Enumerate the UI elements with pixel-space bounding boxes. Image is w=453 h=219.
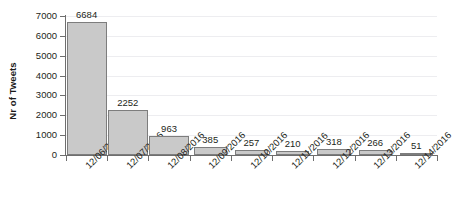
y-axis-tick <box>60 76 65 77</box>
x-axis-tick <box>231 156 232 161</box>
x-axis-tick <box>66 156 67 161</box>
x-axis-tick <box>355 156 356 161</box>
y-axis-tick <box>60 135 65 136</box>
y-axis-tick <box>60 155 65 156</box>
y-axis-tick-label: 6000 <box>17 31 57 41</box>
y-axis-tick-label: 4000 <box>17 71 57 81</box>
bar-chart: Nr of Tweets 010002000300040005000600070… <box>0 0 453 219</box>
y-axis-tick <box>60 56 65 57</box>
bar-value-label: 6684 <box>60 9 113 20</box>
bar-value-label: 2252 <box>101 97 154 108</box>
bar <box>67 22 107 155</box>
x-axis-tick <box>148 156 149 161</box>
gridline <box>66 76 437 77</box>
y-axis-tick-label: 2000 <box>17 110 57 120</box>
y-axis-tick <box>60 115 65 116</box>
x-axis-tick <box>437 156 438 161</box>
y-axis-tick-label: 7000 <box>17 11 57 21</box>
gridline <box>66 16 437 17</box>
x-axis-tick <box>107 156 108 161</box>
x-axis-tick <box>313 156 314 161</box>
x-axis-tick <box>272 156 273 161</box>
y-axis-tick <box>60 36 65 37</box>
y-axis-tick-label: 0 <box>17 150 57 160</box>
gridline <box>66 95 437 96</box>
y-axis-tick-label: 3000 <box>17 90 57 100</box>
gridline <box>66 36 437 37</box>
y-axis-tick <box>60 95 65 96</box>
bar-value-label: 963 <box>142 123 195 134</box>
y-axis-tick-label: 5000 <box>17 51 57 61</box>
x-axis-tick <box>396 156 397 161</box>
gridline <box>66 56 437 57</box>
x-axis-tick <box>190 156 191 161</box>
y-axis-tick-label: 1000 <box>17 130 57 140</box>
